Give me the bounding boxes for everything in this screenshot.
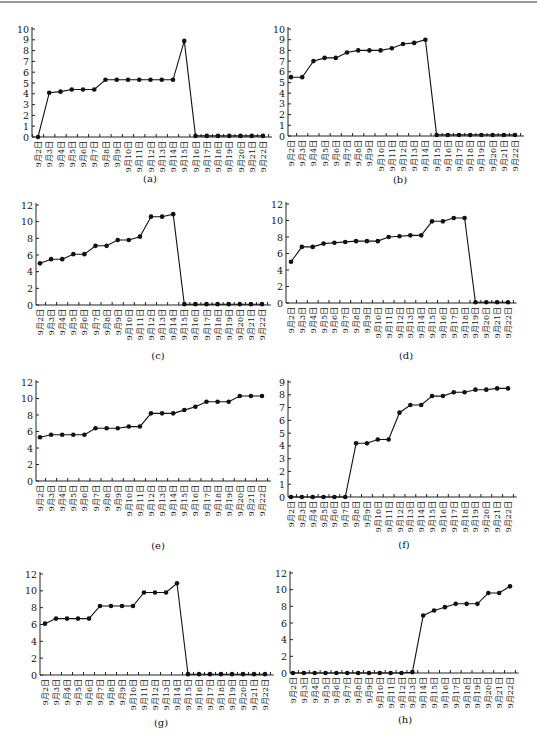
y-tick-label: 6	[279, 66, 285, 77]
y-tick-label: 9	[279, 34, 285, 45]
x-tick-label: 9月7日	[92, 309, 101, 335]
data-point	[238, 394, 243, 399]
x-tick-label: 9月22日	[259, 141, 268, 172]
y-tick-label: 10	[25, 585, 37, 596]
x-tick-label: 9月10日	[124, 141, 133, 172]
data-point	[473, 300, 478, 305]
y-tick-label: 4	[23, 88, 29, 99]
data-point	[60, 433, 65, 438]
data-point	[412, 41, 417, 46]
x-tick-label: 9月19日	[228, 679, 237, 710]
y-tick-label: 2	[27, 459, 33, 470]
panel-caption: (d)	[399, 350, 413, 361]
data-point	[453, 602, 458, 607]
x-tick-label: 9月22日	[261, 679, 270, 710]
data-point	[164, 590, 169, 595]
data-line	[291, 40, 515, 135]
data-point	[473, 387, 478, 392]
data-line	[293, 586, 510, 673]
x-tick-label: 9月18日	[466, 140, 475, 171]
x-tick-label: 9月4日	[58, 485, 67, 511]
y-tick-label: 7	[279, 56, 285, 67]
y-tick-label: 6	[31, 619, 37, 630]
x-tick-label: 9月8日	[103, 485, 112, 511]
x-tick-label: 9月14日	[169, 485, 178, 516]
y-tick-label: 0	[27, 300, 33, 311]
data-point	[193, 134, 198, 139]
x-tick-label: 9月18日	[461, 501, 470, 532]
x-tick-label: 9月6日	[80, 485, 89, 511]
data-point	[310, 495, 315, 500]
data-point	[138, 424, 143, 429]
x-tick-label: 9月21日	[250, 679, 259, 710]
x-tick-label: 9月15日	[430, 677, 439, 708]
data-point	[38, 261, 43, 266]
y-tick-label: 2	[23, 110, 29, 121]
data-point	[226, 302, 231, 307]
chart-panel-c: 0246810129月2日9月3日9月4日9月5日9月6日9月7日9月8日9月9…	[21, 200, 271, 362]
x-tick-label: 9月18日	[461, 307, 470, 338]
data-point	[378, 671, 383, 676]
data-point	[238, 302, 243, 307]
x-tick-label: 9月16日	[191, 309, 200, 340]
x-tick-label: 9月21日	[247, 485, 256, 516]
y-tick-label: 4	[279, 88, 285, 99]
x-tick-label: 9月9日	[363, 501, 372, 527]
y-tick-label: 2	[277, 281, 283, 292]
data-point	[69, 87, 74, 92]
data-point	[238, 134, 243, 139]
x-tick-label: 9月16日	[439, 501, 448, 532]
data-point	[311, 59, 316, 64]
data-point	[76, 616, 81, 621]
y-tick-label: 4	[27, 443, 33, 454]
data-point	[114, 77, 119, 82]
data-point	[386, 437, 391, 442]
data-point	[92, 87, 97, 92]
y-tick-label: 10	[271, 215, 283, 226]
x-tick-label: 9月17日	[450, 501, 459, 532]
y-tick-label: 8	[277, 232, 283, 243]
data-point	[419, 403, 424, 408]
x-tick-label: 9月7日	[343, 677, 352, 703]
x-tick-label: 9月10日	[377, 140, 386, 171]
x-tick-label: 9月6日	[330, 501, 339, 527]
x-tick-label: 9月22日	[258, 309, 267, 340]
data-point	[323, 671, 328, 676]
x-tick-label: 9月12日	[151, 679, 160, 710]
x-tick-label: 9月2日	[287, 307, 296, 333]
data-point	[103, 77, 108, 82]
x-tick-label: 9月14日	[173, 679, 182, 710]
y-tick-label: 2	[27, 283, 33, 294]
data-point	[441, 394, 446, 399]
data-point	[302, 671, 307, 676]
x-tick-label: 9月13日	[406, 307, 415, 338]
data-point	[401, 42, 406, 47]
chart-grid: 0123456789109月2日9月3日9月4日9月5日9月6日9月7日9月8日…	[0, 0, 537, 749]
data-point	[462, 216, 467, 221]
y-tick-label: 6	[27, 250, 33, 261]
y-tick-label: 10	[275, 584, 287, 595]
chart-panel-g: 0246810129月2日9月3日9月4日9月5日9月6日9月7日9月8日9月9…	[25, 569, 274, 729]
data-point	[81, 87, 86, 92]
x-tick-label: 9月17日	[203, 485, 212, 516]
y-tick-label: 8	[23, 45, 29, 56]
chart-panel-e: 0246810129月2日9月3日9月4日9月5日9月6日9月7日9月8日9月9…	[21, 377, 271, 552]
x-tick-label: 9月3日	[47, 309, 56, 335]
y-tick-label: 2	[279, 466, 285, 477]
data-point	[408, 403, 413, 408]
data-point	[109, 604, 114, 609]
x-tick-label: 9月15日	[184, 679, 193, 710]
x-tick-label: 9月17日	[455, 140, 464, 171]
data-point	[332, 240, 337, 245]
x-tick-label: 9月9日	[114, 485, 123, 511]
data-point	[289, 495, 294, 500]
chart-panel-b: 0123456789109月2日9月3日9月4日9月5日9月6日9月7日9月8日…	[273, 24, 524, 186]
x-tick-label: 9月3日	[45, 141, 54, 167]
y-tick-label: 12	[271, 199, 283, 210]
data-point	[249, 302, 254, 307]
panel-caption: (g)	[154, 717, 168, 728]
x-tick-label: 9月7日	[343, 140, 352, 166]
data-point	[334, 671, 339, 676]
x-tick-label: 9月20日	[484, 677, 493, 708]
x-tick-label: 9月20日	[489, 140, 498, 171]
